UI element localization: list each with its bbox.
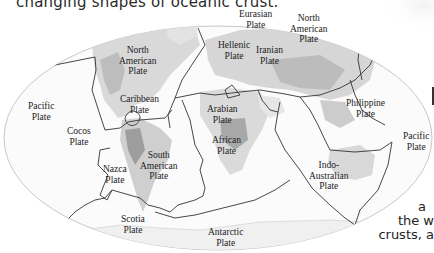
label-philippine-plate: PhilippinePlate [346, 98, 385, 119]
label-antarctic-plate: AntarcticPlate [208, 227, 243, 248]
label-pacific-plate-east: PacificPlate [403, 131, 429, 152]
label-iranian-plate: IranianPlate [256, 45, 283, 66]
label-hellenic-plate: HellenicPlate [218, 40, 250, 61]
label-african-plate: AfricanPlate [212, 135, 241, 156]
label-scotia-plate: ScotiaPlate [121, 214, 145, 235]
label-eurasian-plate: EurasianPlate [239, 9, 272, 30]
label-nazca-plate: NazcaPlate [103, 164, 127, 185]
label-north-american-plate-east: NorthAmericanPlate [290, 13, 327, 45]
label-pacific-plate-west: PacificPlate [28, 101, 54, 122]
label-cocos-plate: CocosPlate [67, 126, 91, 147]
body-text-line-1: a [378, 200, 434, 214]
label-north-american-plate: NorthAmericanPlate [119, 45, 156, 77]
tectonic-plate-map: NorthAmericanPlate CaribbeanPlate Pacifi… [0, 0, 434, 253]
label-indo-australian-plate: Indo-AustralianPlate [309, 160, 349, 192]
body-text-fragment: a the w crusts, a [378, 200, 434, 242]
body-text-line-3: crusts, a [378, 228, 434, 242]
label-south-american-plate: SouthAmericanPlate [140, 150, 177, 182]
label-caribbean-plate: CaribbeanPlate [120, 94, 159, 115]
body-text-line-2: the w [378, 214, 434, 228]
label-arabian-plate: ArabianPlate [207, 104, 238, 125]
map-graphic [0, 0, 434, 253]
